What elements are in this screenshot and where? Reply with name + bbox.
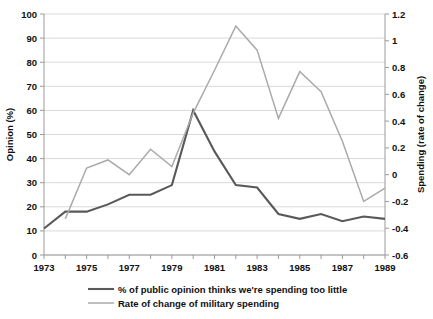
y2-tick-label: 1.2 [392,9,405,20]
y2-tick-label: -0.2 [392,196,408,207]
y-tick-label: 0 [32,250,37,261]
y2-tick-label: 0.6 [392,89,405,100]
y2-tick-label: 0.2 [392,142,405,153]
x-tick-label: 1977 [119,262,140,273]
y-tick-label: 80 [26,57,37,68]
y-tick-label: 50 [26,129,37,140]
y-tick-label: 60 [26,105,37,116]
y2-axis-title: Spending (rate of change) [415,76,426,193]
y-tick-label: 100 [21,9,37,20]
x-tick-label: 1987 [332,262,353,273]
series-line-2 [65,26,385,219]
y2-tick-label: 0.4 [392,116,406,127]
y-tick-label: 10 [26,225,37,236]
line-chart: 0102030405060708090100-0.6-0.4-0.200.20.… [0,0,433,319]
y-tick-label: 90 [26,33,37,44]
x-tick-label: 1983 [247,262,268,273]
y2-tick-label: -0.4 [392,223,409,234]
y-axis-title: Opinion (%) [4,108,15,161]
y2-tick-label: 0.8 [392,62,405,73]
chart-container: 0102030405060708090100-0.6-0.4-0.200.20.… [0,0,433,319]
x-tick-label: 1973 [33,262,54,273]
y2-tick-label: 0 [392,169,397,180]
y-tick-label: 70 [26,81,37,92]
x-axis: 197319751977197919811983198519871989 [33,255,395,273]
x-tick-label: 1981 [204,262,226,273]
legend-label-1: % of public opinion thinks we're spendin… [118,284,347,295]
x-tick-label: 1985 [289,262,311,273]
y-tick-label: 20 [26,201,37,212]
x-tick-label: 1989 [374,262,395,273]
y2-axis: -0.6-0.4-0.200.20.40.60.811.2 [385,9,409,261]
series-line-1 [44,110,385,228]
legend-label-2: Rate of change of military spending [118,298,279,309]
y-tick-label: 40 [26,153,37,164]
chart-legend: % of public opinion thinks we're spendin… [88,284,347,309]
x-tick-label: 1975 [76,262,98,273]
y-tick-label: 30 [26,177,37,188]
y2-tick-label: -0.6 [392,250,408,261]
y2-tick-label: 1 [392,35,398,46]
y-axis: 0102030405060708090100 [21,9,44,261]
x-tick-label: 1979 [161,262,182,273]
series-group [44,26,385,228]
